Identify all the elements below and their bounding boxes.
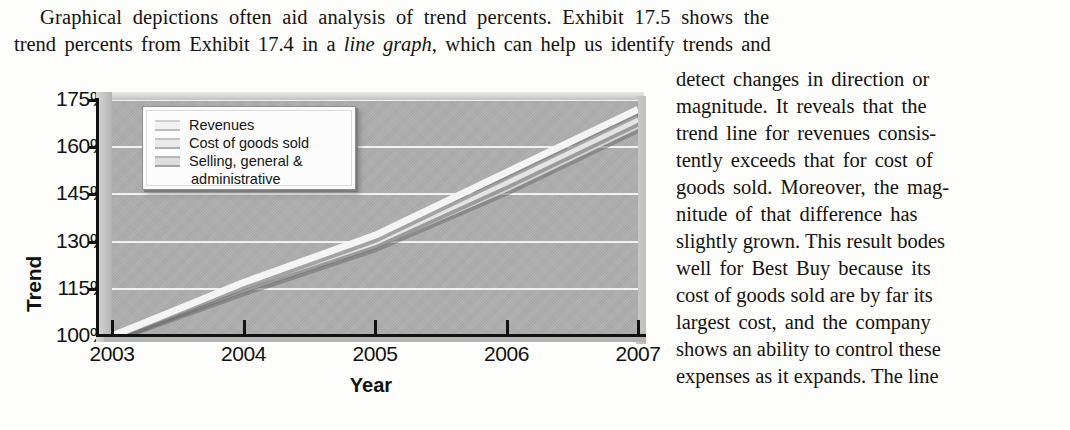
- right-line: cost of goods sold are by far its: [676, 282, 1060, 309]
- right-line: goods sold. Moreover, the mag-: [676, 174, 1060, 201]
- right-line: largest cost, and the company: [676, 309, 1060, 336]
- x-axis-tick-label: 2005: [320, 342, 430, 366]
- right-line: shows an ability to control these: [676, 336, 1060, 363]
- y-axis-tick: [88, 99, 99, 102]
- right-text-column: detect changes in direction or magnitude…: [676, 66, 1060, 390]
- x-axis-tick-label: 2004: [189, 342, 299, 366]
- lead-line-1: Graphical depictions often aid analysis …: [14, 4, 1056, 31]
- figure-page: Graphical depictions often aid analysis …: [0, 0, 1070, 430]
- right-line: detect changes in direction or: [676, 66, 1060, 93]
- chart-legend: Revenues Cost of goods sold Selling, gen…: [142, 106, 356, 190]
- legend-item-revenues: Revenues: [155, 116, 351, 134]
- x-axis-title: Year: [96, 374, 646, 397]
- right-line: expenses as it expands. The line: [676, 363, 1060, 390]
- legend-label: Cost of goods sold: [189, 135, 309, 151]
- x-axis-tick-label: 2003: [57, 342, 167, 366]
- y-axis-tick: [88, 288, 99, 291]
- legend-swatch-icon: [155, 138, 180, 149]
- y-axis-tick: [88, 193, 99, 196]
- y-axis-tick: [88, 146, 99, 149]
- plot-frame: Revenues Cost of goods sold Selling, gen…: [96, 92, 644, 342]
- right-line: nitude of that difference has: [676, 201, 1060, 228]
- line-graph-italic: line graph,: [344, 33, 437, 55]
- x-axis-tick-label: 2006: [452, 342, 562, 366]
- x-axis-tick: [111, 320, 114, 335]
- legend-inner: Revenues Cost of goods sold Selling, gen…: [146, 110, 352, 186]
- legend-swatch-icon: [155, 156, 180, 167]
- right-line: slightly grown. This result bodes: [676, 228, 1060, 255]
- legend-item-cost-of-goods-sold: Cost of goods sold: [155, 134, 351, 152]
- lead-line-2-part-b: which can help us identify trends and: [437, 33, 771, 55]
- right-line: trend line for revenues consis-: [676, 120, 1060, 147]
- y-axis-line: [96, 98, 99, 336]
- lead-line-2-part-a: trend percents from Exhibit 17.4 in a: [14, 33, 344, 55]
- lead-line-2: trend percents from Exhibit 17.4 in a li…: [14, 31, 1056, 58]
- y-axis-tick: [88, 241, 99, 244]
- legend-item-sga: Selling, general &: [155, 152, 351, 170]
- x-axis-tick: [637, 320, 640, 335]
- legend-label: Selling, general &: [189, 153, 303, 169]
- legend-item-sga-continued: administrative: [155, 170, 351, 188]
- x-axis-tick-label: 2007: [583, 342, 693, 366]
- x-axis-line: [96, 334, 646, 337]
- x-axis-tick: [243, 320, 246, 335]
- legend-label-continued: administrative: [191, 171, 280, 187]
- trend-line-chart: Trend 100%115%130%145%160%175% Revenues: [0, 86, 676, 430]
- legend-label: Revenues: [189, 117, 254, 133]
- right-line: magnitude. It reveals that the: [676, 93, 1060, 120]
- right-line: tently exceeds that for cost of: [676, 147, 1060, 174]
- lead-paragraph: Graphical depictions often aid analysis …: [14, 4, 1056, 58]
- legend-swatch-icon: [155, 120, 180, 131]
- right-line: well for Best Buy because its: [676, 255, 1060, 282]
- x-axis-tick: [506, 320, 509, 335]
- x-axis-tick: [374, 320, 377, 335]
